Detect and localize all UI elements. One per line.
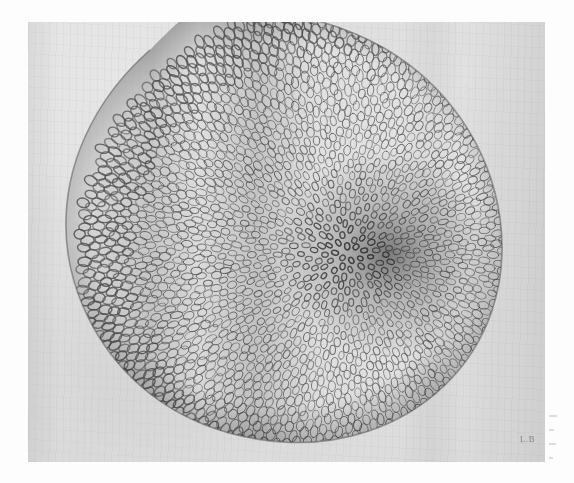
- rim-shading: [39, 22, 529, 457]
- artist-signature: L.B: [520, 434, 536, 445]
- specimen-body: [28, 22, 545, 462]
- specimen-drawing: [28, 22, 545, 462]
- margin-mark: [549, 415, 557, 417]
- margin-mark: [549, 443, 556, 445]
- margin-mark: [549, 457, 553, 459]
- scanned-plate: L.B: [28, 22, 545, 462]
- margin-mark: [549, 429, 554, 431]
- page-canvas: L.B: [0, 0, 574, 483]
- margin-bleedthrough-marks: [549, 415, 571, 459]
